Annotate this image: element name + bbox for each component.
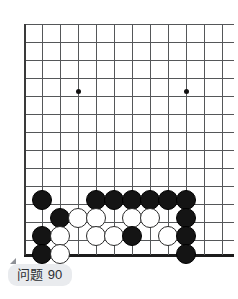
white-stone[interactable] (140, 208, 160, 228)
black-stone[interactable] (86, 190, 106, 210)
board-line-vertical (222, 24, 223, 255)
board-line-horizontal (24, 60, 234, 61)
board-line-horizontal (24, 42, 234, 43)
board-line-vertical (24, 24, 26, 255)
black-stone[interactable] (176, 208, 196, 228)
white-stone[interactable] (50, 226, 70, 246)
white-stone[interactable] (122, 208, 142, 228)
board-line-horizontal (24, 132, 234, 133)
black-stone[interactable] (32, 244, 52, 264)
black-stone[interactable] (176, 226, 196, 246)
problem-caption: 问题 90 (8, 264, 72, 286)
board-line-horizontal (24, 150, 234, 151)
board-line-horizontal (24, 114, 234, 115)
black-stone[interactable] (104, 190, 124, 210)
board-line-vertical (204, 24, 205, 255)
board-line-horizontal (24, 186, 234, 187)
white-stone[interactable] (158, 226, 178, 246)
hoshi-star-point (76, 89, 81, 94)
black-stone[interactable] (32, 190, 52, 210)
board-line-horizontal (24, 96, 234, 97)
board-line-horizontal (24, 24, 234, 25)
go-board[interactable] (0, 0, 238, 268)
board-line-vertical (114, 24, 115, 255)
board-line-horizontal (24, 168, 234, 169)
black-stone[interactable] (50, 208, 70, 228)
go-problem-figure: 问题 90 (0, 0, 238, 299)
board-line-vertical (42, 24, 43, 255)
black-stone[interactable] (122, 190, 142, 210)
white-stone[interactable] (68, 208, 88, 228)
white-stone[interactable] (86, 226, 106, 246)
hoshi-star-point (184, 89, 189, 94)
white-stone[interactable] (86, 208, 106, 228)
board-line-horizontal (24, 78, 234, 79)
black-stone[interactable] (32, 226, 52, 246)
black-stone[interactable] (176, 190, 196, 210)
caption-number: 90 (48, 268, 62, 281)
board-line-vertical (168, 24, 169, 255)
white-stone[interactable] (104, 226, 124, 246)
black-stone[interactable] (140, 190, 160, 210)
caption-label: 问题 (17, 268, 44, 281)
black-stone[interactable] (122, 226, 142, 246)
black-stone[interactable] (158, 190, 178, 210)
white-stone[interactable] (50, 244, 70, 264)
black-stone[interactable] (176, 244, 196, 264)
